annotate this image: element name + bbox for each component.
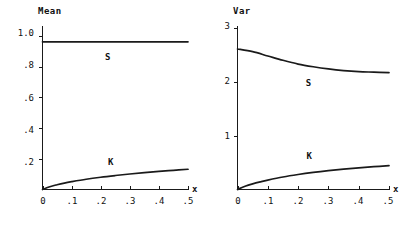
series-curves-mean [43,42,189,190]
x-tick-label-4: .3 [120,196,140,206]
x-tick-label-2: .1 [258,196,278,206]
curve-k [238,166,390,190]
y-tick-label-2: .8 [8,60,34,70]
curve-label-k: K [307,151,312,161]
curve-k [43,169,189,189]
plot-area-var [202,0,404,228]
curve-label-k: K [108,157,113,167]
curve-label-s: S [306,78,311,88]
y-tick-label-3: 1 [204,131,230,141]
x-tick-label-1: 0 [228,196,248,206]
series-curves-var [238,49,390,190]
axes-mean [43,26,189,190]
x-axis-title-mean: x [192,184,197,194]
y-tick-label-5: .2 [8,157,34,167]
x-tick-label-1: 0 [33,196,53,206]
y-tick-label-1: 3 [204,21,230,31]
y-axis-title-var: Var [233,6,251,16]
x-tick-label-3: .2 [91,196,111,206]
x-tick-label-4: .3 [318,196,338,206]
chart-panel-mean: Mean 1.0 .8 .6 .4 .2 0 .1 .2 .3 .4 .5 S … [0,0,202,228]
x-tick-label-6: .5 [178,196,198,206]
x-tick-label-5: .4 [348,196,368,206]
y-tick-label-1: 1.0 [8,28,34,38]
x-tick-label-5: .4 [149,196,169,206]
x-tick-label-3: .2 [288,196,308,206]
y-tick-label-4: .4 [8,125,34,135]
y-tick-label-3: .6 [8,93,34,103]
curve-label-s: S [105,52,110,62]
axes-var [238,26,390,190]
y-axis-title-mean: Mean [38,6,62,16]
y-tick-label-2: 2 [204,76,230,86]
x-tick-label-6: .5 [378,196,398,206]
curve-s [238,49,390,73]
x-axis-title-var: x [393,184,398,194]
figure-canvas: Mean 1.0 .8 .6 .4 .2 0 .1 .2 .3 .4 .5 S … [0,0,404,228]
x-tick-label-2: .1 [62,196,82,206]
chart-panel-var: Var 3 2 1 0 .1 .2 .3 .4 .5 S K x [202,0,404,228]
